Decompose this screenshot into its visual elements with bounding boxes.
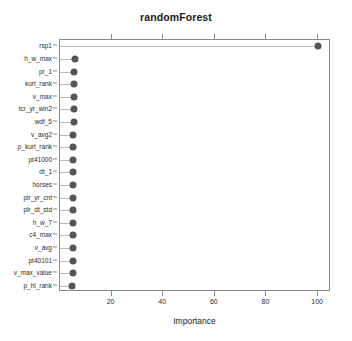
y-axis-tick (53, 272, 57, 273)
data-point-marker (71, 81, 78, 88)
y-axis-tick (53, 133, 57, 134)
y-axis-tick-label: dt_1 (39, 168, 52, 175)
x-axis-top-tick (265, 34, 266, 39)
y-axis-tick (53, 171, 57, 172)
y-axis-tick-label: v_avg2 (31, 130, 52, 137)
x-axis-tick-label: 80 (262, 298, 270, 305)
y-axis-tick (53, 120, 57, 121)
data-point-marker (69, 282, 76, 289)
y-axis-tick-label: plr_dt_std (23, 206, 52, 213)
data-surface (60, 40, 329, 290)
data-point-marker (70, 118, 77, 125)
data-point-marker (70, 144, 77, 151)
value-connector-line (60, 46, 318, 47)
data-point-marker (69, 219, 76, 226)
y-axis-tick (53, 284, 57, 285)
y-axis-tick (53, 209, 57, 210)
y-axis-tick (53, 158, 57, 159)
data-point-marker (70, 194, 77, 201)
y-axis-tick-label: pt40101 (29, 256, 53, 263)
y-axis-tick-label: h_w_7 (33, 218, 52, 225)
x-axis-top-ticks (59, 39, 330, 45)
data-point-marker (69, 232, 76, 239)
plot-panel (59, 39, 330, 291)
y-axis-tick (53, 196, 57, 197)
x-axis-tick (265, 291, 266, 296)
y-axis-tick (53, 146, 57, 147)
y-axis-tick-label: v_max_value (14, 269, 52, 276)
y-axis-tick-label: tcr_yr_win2 (19, 105, 52, 112)
x-axis-tick (162, 291, 163, 296)
x-axis-bottom-ticks: 20406080100 (59, 291, 330, 297)
y-axis-tick (53, 108, 57, 109)
y-axis-tick-label: rsp1 (39, 42, 52, 49)
data-point-marker (70, 93, 77, 100)
y-axis-tick-label: v_avg (35, 243, 52, 250)
y-axis-tick-label: p_hl_rank (23, 281, 52, 288)
y-axis-tick (53, 83, 57, 84)
y-axis-tick-label: pr_1 (39, 67, 52, 74)
data-point-marker (70, 156, 77, 163)
data-point-marker (70, 169, 77, 176)
x-axis-tick (111, 291, 112, 296)
y-axis-tick (53, 246, 57, 247)
x-axis-top-tick (162, 34, 163, 39)
y-axis-tick-label: plr_yr_cnt (23, 193, 52, 200)
x-axis-tick-label: 20 (107, 298, 115, 305)
x-axis-top-tick (317, 34, 318, 39)
data-point-marker (69, 270, 76, 277)
y-axis-tick-label: p_kurt_rank (18, 143, 52, 150)
page-title: randomForest (0, 11, 352, 23)
x-axis-top-tick (111, 34, 112, 39)
y-axis-tick (53, 57, 57, 58)
x-axis-tick (214, 291, 215, 296)
y-axis-tick (53, 45, 57, 46)
x-axis-top-tick (214, 34, 215, 39)
data-point-marker (70, 181, 77, 188)
y-axis-tick-label: kurt_rank (25, 80, 52, 87)
y-axis-tick-label: c4_max (29, 231, 52, 238)
y-axis-tick (53, 183, 57, 184)
data-point-marker (70, 131, 77, 138)
data-point-marker (69, 257, 76, 264)
y-axis-tick (53, 70, 57, 71)
y-axis-tick-label: pt41000 (29, 155, 53, 162)
y-axis-labels: rsp1h_w_maxpr_1kurt_rankv_maxtcr_yr_win2… (0, 39, 57, 291)
x-axis-tick (317, 291, 318, 296)
y-axis-tick-label: h_w_max (24, 54, 52, 61)
y-axis-tick (53, 234, 57, 235)
data-point-marker (71, 55, 78, 62)
x-axis-label: Importance (59, 316, 330, 326)
y-axis-tick-label: horses (32, 180, 52, 187)
y-axis-tick (53, 221, 57, 222)
data-point-marker (71, 68, 78, 75)
y-axis-tick (53, 95, 57, 96)
random-forest-importance-figure: randomForest rsp1h_w_maxpr_1kurt_rankv_m… (0, 0, 352, 341)
y-axis-tick-label: wdf_5 (35, 117, 52, 124)
data-point-marker (69, 207, 76, 214)
data-point-marker (69, 244, 76, 251)
y-axis-tick-label: v_max (33, 92, 52, 99)
data-point-marker (70, 106, 77, 113)
y-axis-tick (53, 259, 57, 260)
x-axis-tick-label: 100 (311, 298, 323, 305)
x-axis-tick-label: 60 (210, 298, 218, 305)
x-axis-tick-label: 40 (158, 298, 166, 305)
